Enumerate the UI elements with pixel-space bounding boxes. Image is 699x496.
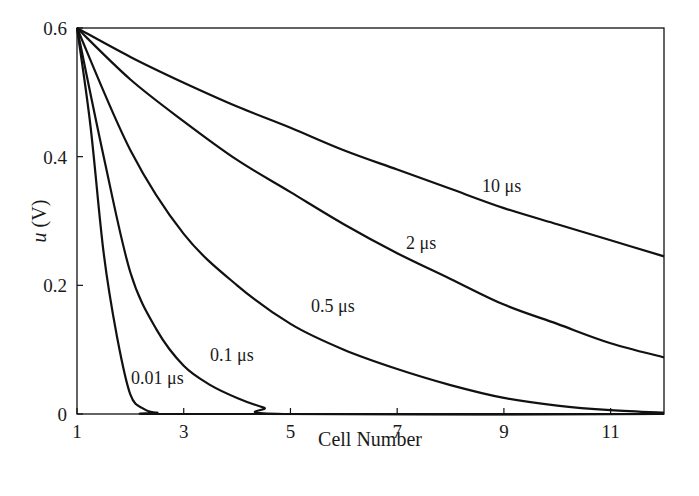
- plot-frame: [77, 28, 664, 414]
- y-tick-label: 0.6: [43, 18, 67, 39]
- curves: [77, 28, 664, 414]
- curve-line: [77, 28, 664, 414]
- y-tick-label: 0.4: [43, 147, 67, 168]
- curve-line: [77, 28, 664, 256]
- y-tick-label: 0: [58, 404, 68, 425]
- x-tick-label: 5: [286, 421, 296, 442]
- line-chart: 1357911 00.20.40.6 10 μs2 μs0.5 μs0.1 μs…: [0, 0, 699, 496]
- curve-line: [77, 28, 664, 357]
- curve-label: 2 μs: [406, 233, 436, 253]
- curve-line: [77, 28, 664, 414]
- curve-label: 0.01 μs: [131, 368, 184, 388]
- x-axis-title: Cell Number: [318, 428, 422, 450]
- curve-label: 10 μs: [482, 176, 521, 196]
- curve-labels: 10 μs2 μs0.5 μs0.1 μs0.01 μs: [131, 176, 521, 388]
- x-tick-label: 1: [72, 421, 82, 442]
- y-axis-title: u (V): [28, 200, 51, 243]
- curve-label: 0.1 μs: [210, 345, 254, 365]
- x-tick-label: 3: [179, 421, 189, 442]
- curve-line: [77, 28, 664, 413]
- x-tick-label: 9: [499, 421, 509, 442]
- x-tick-label: 11: [601, 421, 619, 442]
- y-tick-label: 0.2: [43, 275, 67, 296]
- curve-label: 0.5 μs: [311, 296, 355, 316]
